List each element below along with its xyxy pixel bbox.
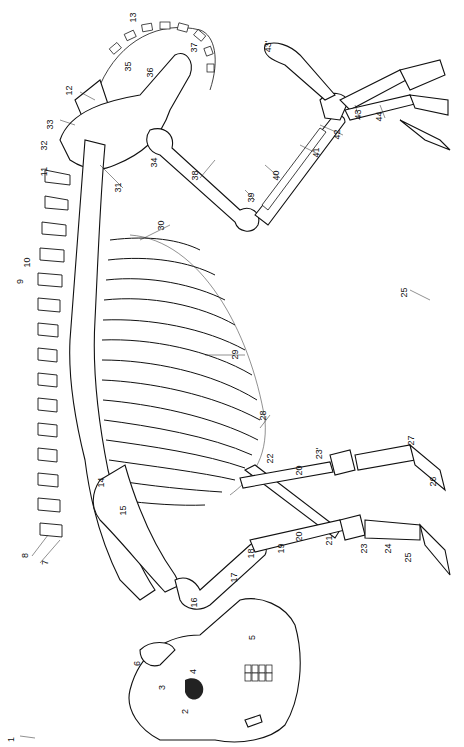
- femur: [147, 129, 259, 231]
- label-8: 8: [21, 553, 30, 558]
- label-44: 44: [375, 111, 384, 121]
- rib-cage: [102, 238, 260, 505]
- label-18: 18: [247, 548, 256, 558]
- label-21: 21: [325, 535, 334, 545]
- label-17: 17: [230, 572, 239, 582]
- label-43p: 43': [264, 41, 273, 53]
- fore-carpus-2: [340, 515, 365, 540]
- label-5: 5: [248, 635, 257, 640]
- label-16: 16: [190, 597, 199, 607]
- label-19: 19: [277, 543, 286, 553]
- label-43: 43: [354, 109, 363, 119]
- label-25a: 25: [404, 552, 413, 562]
- skeleton-diagram: 1 2 3 4 5 6 7 8 14 15 16 17 18 19 20 20 …: [0, 0, 464, 747]
- label-25b: 25: [400, 287, 409, 297]
- label-39: 39: [247, 192, 256, 202]
- label-9: 9: [16, 279, 25, 284]
- label-4: 4: [189, 669, 198, 674]
- hind-digits: [400, 60, 448, 115]
- hind-hooves: [400, 120, 450, 150]
- label-20b: 20: [295, 531, 304, 541]
- label-29: 29: [231, 349, 240, 359]
- fore-metacarpals-1: [355, 445, 415, 470]
- label-11: 11: [40, 167, 49, 176]
- label-42: 42: [333, 129, 342, 139]
- label-40: 40: [272, 170, 281, 180]
- label-22: 22: [266, 453, 275, 463]
- label-34: 34: [150, 157, 159, 167]
- label-13: 13: [129, 12, 138, 22]
- label-23p: 23': [315, 448, 324, 460]
- label-14: 14: [97, 477, 106, 487]
- label-20a: 20: [295, 465, 304, 475]
- label-7: 7: [41, 560, 50, 565]
- label-12: 12: [65, 85, 74, 95]
- label-6: 6: [133, 661, 142, 666]
- label-23: 23: [360, 543, 369, 553]
- calcaneus: [264, 43, 335, 100]
- spinous-processes: [38, 170, 70, 537]
- fibula: [262, 128, 326, 210]
- label-28: 28: [259, 410, 268, 420]
- label-33: 33: [46, 119, 55, 129]
- label-32: 32: [40, 140, 49, 150]
- skull: [129, 599, 300, 742]
- label-37: 37: [190, 42, 199, 52]
- label-27: 27: [407, 435, 416, 445]
- label-1: 1: [7, 737, 16, 742]
- fore-hooves-2: [420, 525, 450, 575]
- label-41: 41: [312, 147, 321, 157]
- label-10: 10: [23, 257, 32, 267]
- label-2: 2: [181, 709, 190, 714]
- label-38: 38: [191, 170, 200, 180]
- label-36: 36: [146, 67, 155, 77]
- label-35: 35: [124, 61, 133, 71]
- costal-arch: [130, 235, 265, 495]
- label-26: 26: [429, 476, 438, 486]
- fore-metacarpals-2: [365, 520, 420, 540]
- label-15: 15: [119, 505, 128, 515]
- label-30: 30: [157, 220, 166, 230]
- skeleton-drawing: [0, 0, 464, 747]
- label-24: 24: [384, 543, 393, 553]
- fore-carpus-1: [330, 450, 355, 475]
- label-31: 31: [114, 182, 123, 192]
- label-3: 3: [158, 685, 167, 690]
